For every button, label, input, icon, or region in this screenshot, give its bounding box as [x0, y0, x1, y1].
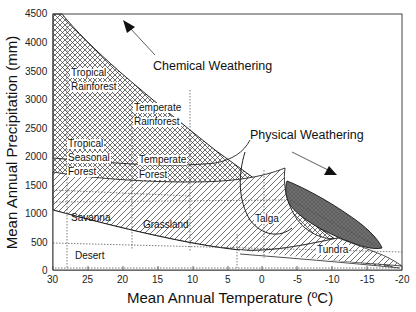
y-tick-4000: 4000: [25, 38, 47, 48]
label-tropical-rainforest-1: Tropical: [70, 68, 107, 78]
x-tick-15: 15: [152, 275, 163, 285]
physical-weathering-arrow: [292, 152, 337, 175]
y-tick-1000: 1000: [25, 209, 47, 219]
y-tick-1500: 1500: [25, 181, 47, 191]
y-tick-4500: 4500: [25, 9, 47, 19]
label-talga: Talga: [254, 214, 280, 224]
x-tick-neg5: -5: [293, 275, 302, 285]
x-tick-5: 5: [225, 275, 231, 285]
label-grassland: Grassland: [142, 220, 190, 230]
label-temperate-rainforest-1: Temperate: [133, 103, 182, 113]
label-temperate-rainforest-2: Rainforest: [133, 117, 181, 127]
y-tick-3500: 3500: [25, 67, 47, 77]
y-tick-2000: 2000: [25, 152, 47, 162]
x-tick-neg20: -20: [395, 275, 409, 285]
x-tick-0: 0: [259, 275, 265, 285]
x-tick-20: 20: [117, 275, 128, 285]
x-tick-10: 10: [187, 275, 198, 285]
label-temperate-forest-2: Forest: [138, 170, 168, 180]
chemical-weathering-arrow: [123, 20, 155, 55]
x-tick-30: 30: [47, 275, 58, 285]
y-tick-3000: 3000: [25, 95, 47, 105]
biome-weathering-diagram: [0, 0, 416, 312]
label-desert: Desert: [74, 251, 105, 261]
y-tick-500: 500: [31, 238, 48, 248]
label-tropical-rainforest-2: Rainforest: [70, 82, 118, 92]
x-tick-25: 25: [82, 275, 93, 285]
physical-weathering-label: Physical Weathering: [250, 129, 364, 142]
label-temperate-forest-1: Temperate: [138, 155, 187, 165]
label-tropical-seasonal-forest-1: Tropical: [67, 139, 104, 149]
x-tick-neg10: -10: [325, 275, 339, 285]
x-axis-title: Mean Annual Temperature (ºC): [127, 290, 333, 305]
y-axis-title: Mean Annual Precipitation (mm): [4, 28, 19, 258]
label-savanna: Savanna: [70, 213, 111, 223]
chemical-weathering-label: Chemical Weathering: [153, 60, 272, 73]
label-tundra: Tundra: [316, 245, 349, 255]
label-tropical-seasonal-forest-3: Forest: [67, 167, 97, 177]
label-tropical-seasonal-forest-2: Seasonal: [67, 153, 111, 163]
y-tick-2500: 2500: [25, 124, 47, 134]
x-tick-neg15: -15: [360, 275, 374, 285]
